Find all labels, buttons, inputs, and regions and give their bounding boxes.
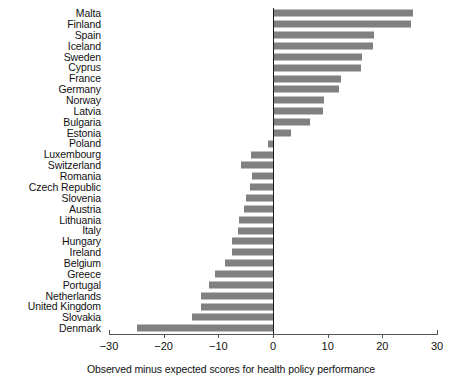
zero-reference-line [273, 8, 274, 334]
x-axis-tick [328, 334, 329, 338]
x-axis-tick [437, 330, 438, 335]
bar[interactable] [246, 195, 273, 202]
bar[interactable] [244, 205, 273, 212]
bar[interactable] [137, 325, 273, 332]
bar[interactable] [273, 32, 374, 39]
bar[interactable] [273, 53, 362, 60]
x-axis-tick-label: 30 [431, 341, 443, 352]
y-axis-label: Spain [0, 30, 105, 41]
bar[interactable] [232, 249, 273, 256]
y-axis-label: Greece [0, 269, 105, 280]
bar[interactable] [241, 162, 273, 169]
bar[interactable] [215, 271, 273, 278]
y-axis-label: Denmark [0, 323, 105, 334]
bar[interactable] [209, 281, 273, 288]
bar[interactable] [273, 64, 361, 71]
bar[interactable] [251, 151, 273, 158]
bar[interactable] [201, 292, 273, 299]
y-axis-label: Czech Republic [0, 182, 105, 193]
bar[interactable] [273, 129, 291, 136]
x-axis-tick-label: 20 [376, 341, 388, 352]
bar[interactable] [239, 216, 273, 223]
x-axis-title: Observed minus expected scores for healt… [0, 364, 462, 375]
y-axis-label: Belgium [0, 258, 105, 269]
bar[interactable] [273, 43, 373, 50]
bar[interactable] [250, 184, 273, 191]
x-axis-tick-label: 10 [322, 341, 334, 352]
bar[interactable] [192, 314, 273, 321]
x-axis-tick [382, 334, 383, 338]
chart-container: MaltaFinlandSpainIcelandSwedenCyprusFran… [0, 0, 462, 389]
x-axis-tick [164, 334, 165, 338]
y-axis-label: Latvia [0, 106, 105, 117]
x-axis-tick [109, 330, 110, 335]
bar[interactable] [273, 10, 413, 17]
x-axis-tick-label: −30 [100, 341, 119, 352]
bar[interactable] [273, 21, 411, 28]
bar[interactable] [273, 108, 323, 115]
bar[interactable] [252, 173, 273, 180]
bar[interactable] [273, 119, 310, 126]
bar[interactable] [273, 97, 324, 104]
x-axis-tick-label: −10 [209, 341, 228, 352]
y-axis-label: Iceland [0, 41, 105, 52]
x-axis-tick [218, 334, 219, 338]
y-axis-label: Austria [0, 203, 105, 214]
bar[interactable] [273, 86, 339, 93]
plot-area [109, 8, 437, 334]
bar[interactable] [225, 260, 273, 267]
y-axis-category-labels: MaltaFinlandSpainIcelandSwedenCyprusFran… [0, 8, 105, 334]
x-axis-tick-label: 0 [270, 341, 276, 352]
x-axis-tick-label: −20 [154, 341, 173, 352]
bar[interactable] [232, 238, 273, 245]
bar[interactable] [201, 303, 273, 310]
y-axis-label: Portugal [0, 279, 105, 290]
x-axis-tick [273, 334, 274, 338]
bar[interactable] [273, 75, 341, 82]
y-axis-label: Slovenia [0, 193, 105, 204]
bar[interactable] [238, 227, 273, 234]
y-axis-label: Bulgaria [0, 117, 105, 128]
